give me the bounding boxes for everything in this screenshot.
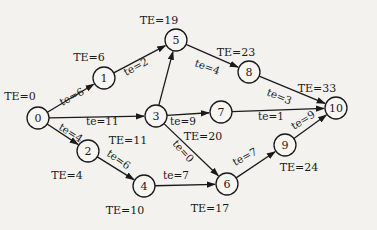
node-number: 3 [153, 110, 160, 123]
activity-network-diagram: te=6te=11te=4te=2te=9te=0te=6te=7te=4te=… [0, 0, 377, 230]
node-number: 7 [218, 106, 225, 119]
arrow-line [159, 52, 173, 106]
event-node-5: 5TE=19 [140, 14, 187, 52]
node-number: 2 [85, 145, 92, 158]
earliest-time-label: TE=6 [73, 51, 105, 64]
network-svg: te=6te=11te=4te=2te=9te=0te=6te=7te=4te=… [0, 0, 377, 230]
node-number: 5 [173, 34, 180, 47]
edge-duration-label: te=4 [57, 121, 86, 145]
earliest-time-label: TE=24 [280, 161, 319, 174]
event-node-1: 1TE=6 [73, 51, 115, 90]
edge-0-to-2: te=4 [47, 121, 85, 145]
edge-duration-label: te=1 [258, 110, 284, 122]
edge-duration-label: te=7 [230, 145, 259, 168]
event-node-6: 6TE=17 [191, 173, 238, 215]
earliest-time-label: TE=33 [298, 82, 337, 95]
edge-duration-label: te=9 [170, 115, 196, 127]
event-node-8: 8TE=23 [217, 46, 260, 84]
earliest-time-label: TE=19 [140, 14, 179, 27]
edge-2-to-4: te=6 [97, 147, 133, 180]
edge-9-to-10: te=9 [289, 108, 327, 139]
edge-duration-label: te=9 [289, 108, 317, 132]
edge-duration-label: te=4 [193, 57, 222, 77]
node-number: 0 [35, 112, 42, 125]
earliest-time-label: TE=4 [51, 169, 83, 182]
edge-3-to-7: te=9 [167, 113, 209, 127]
arrow-line [155, 184, 215, 185]
event-node-0: 0TE=0 [4, 90, 49, 130]
earliest-time-label: TE=0 [4, 90, 36, 103]
edge-duration-label: te=2 [121, 55, 150, 78]
edge-duration-label: te=7 [163, 169, 189, 181]
earliest-time-label: TE=17 [191, 202, 230, 215]
event-node-4: 4TE=10 [106, 175, 155, 217]
edge-duration-label: te=6 [57, 85, 86, 108]
earliest-time-label: TE=10 [106, 204, 145, 217]
edge-6-to-9: te=7 [230, 145, 275, 178]
edge-1-to-5: te=2 [114, 46, 166, 78]
edge-4-to-6: te=7 [155, 169, 215, 186]
event-node-9: 9TE=24 [274, 134, 318, 174]
edge-duration-label: te=6 [105, 147, 133, 172]
node-number: 1 [101, 72, 108, 85]
edge-duration-label: te=11 [86, 115, 119, 127]
earliest-time-label: TE=20 [184, 130, 223, 143]
node-number: 6 [224, 178, 231, 191]
node-number: 10 [329, 102, 343, 115]
edge-3-to-5 [159, 52, 173, 106]
earliest-time-label: TE=11 [109, 134, 148, 147]
earliest-time-label: TE=23 [217, 46, 256, 59]
node-number: 9 [282, 139, 289, 152]
node-number: 4 [141, 180, 148, 193]
node-number: 8 [246, 66, 253, 79]
edge-0-to-1: te=6 [47, 84, 93, 112]
event-node-2: 2TE=4 [51, 140, 99, 182]
